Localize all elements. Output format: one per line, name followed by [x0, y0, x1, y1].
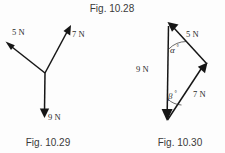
caption-fig-10-30: Fig. 10.30 — [158, 137, 203, 148]
angle-alpha: α ° — [169, 42, 187, 56]
vector-five-newton-shaft — [12, 47, 45, 73]
vector-seven-newton-shaft — [45, 32, 67, 73]
figure-title: Fig. 10.28 — [90, 3, 135, 14]
caption-fig-10-29: Fig. 10.29 — [26, 137, 71, 148]
triangle-vector-seven-newton-label: 7 N — [193, 89, 206, 99]
vector-seven-newton-label: 7 N — [72, 29, 85, 39]
angle-alpha-degree-mark: ° — [177, 44, 180, 50]
vector-five-newton: 5 N — [6, 27, 46, 73]
triangle-vector-five-newton-label: 5 N — [186, 29, 199, 39]
vector-seven-newton-arrowhead — [64, 25, 72, 36]
vector-nine-newton-label: 9 N — [48, 112, 61, 122]
diagram-force-triangle: 9 N 5 N 7 N α ° β — [136, 22, 208, 148]
vector-nine-newton-shaft — [45, 73, 46, 111]
triangle-vector-nine-newton-label: 9 N — [136, 64, 149, 74]
vector-seven-newton: 7 N — [45, 25, 85, 73]
diagram-concurrent-forces: 5 N 7 N 9 N Fig. 10.29 — [6, 25, 85, 148]
triangle-vector-five-newton: 5 N — [168, 22, 208, 64]
figure-canvas: Fig. 10.28 5 N 7 N 9 N — [0, 0, 225, 153]
vector-five-newton-label: 5 N — [12, 27, 25, 37]
figure-container: Fig. 10.28 5 N 7 N 9 N — [0, 0, 225, 153]
triangle-vector-nine-newton: 9 N — [136, 26, 173, 121]
angle-beta-degree-mark: ° — [175, 90, 178, 96]
vector-nine-newton: 9 N — [40, 73, 61, 122]
triangle-vector-seven-newton: 7 N — [168, 63, 208, 121]
angle-alpha-symbol: α — [170, 45, 175, 55]
angle-beta-symbol: β — [167, 91, 173, 101]
